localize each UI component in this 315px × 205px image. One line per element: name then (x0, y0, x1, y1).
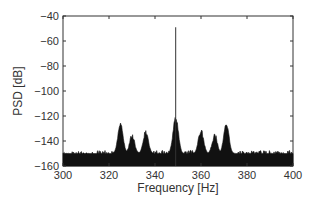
y-tick-label: −120 (34, 110, 59, 122)
x-tick-label: 380 (238, 169, 256, 181)
x-tick-label: 360 (192, 169, 210, 181)
x-tick-label: 340 (146, 169, 164, 181)
x-tick-label: 320 (100, 169, 118, 181)
y-tick-label: −60 (40, 35, 59, 47)
plot-area (63, 16, 293, 166)
y-tick-label: −140 (34, 135, 59, 147)
y-tick-label: −160 (34, 160, 59, 172)
x-tick-label: 400 (284, 169, 302, 181)
x-axis-label: Frequency [Hz] (137, 181, 218, 195)
y-tick-label: −100 (34, 85, 59, 97)
x-tick-labels: 300320340360380400 (54, 169, 302, 181)
y-tick-labels: −40−60−80−100−120−140−160 (34, 10, 59, 172)
y-tick-label: −40 (40, 10, 59, 22)
y-axis-label: PSD [dB] (11, 66, 25, 115)
psd-chart: 300320340360380400 −40−60−80−100−120−140… (0, 0, 315, 205)
y-tick-label: −80 (40, 60, 59, 72)
